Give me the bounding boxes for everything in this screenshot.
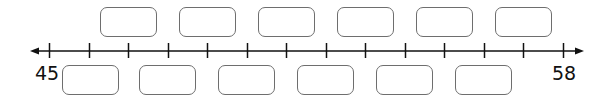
top-answer-box-5[interactable] bbox=[416, 7, 473, 37]
bottom-answer-box-1[interactable] bbox=[62, 65, 119, 95]
end-label: 58 bbox=[552, 64, 576, 83]
bottom-answer-box-4[interactable] bbox=[297, 65, 354, 95]
bottom-answer-box-5[interactable] bbox=[376, 65, 433, 95]
bottom-answer-box-3[interactable] bbox=[218, 65, 275, 95]
top-answer-box-1[interactable] bbox=[100, 7, 157, 37]
bottom-answer-box-6[interactable] bbox=[455, 65, 512, 95]
bottom-answer-box-2[interactable] bbox=[139, 65, 196, 95]
number-line-worksheet: 45 58 bbox=[0, 0, 611, 104]
left-arrow-icon bbox=[30, 48, 39, 55]
top-answer-box-4[interactable] bbox=[337, 7, 394, 37]
top-answer-box-6[interactable] bbox=[495, 7, 552, 37]
right-arrow-icon bbox=[575, 48, 584, 55]
top-answer-box-2[interactable] bbox=[179, 7, 236, 37]
start-label: 45 bbox=[35, 64, 59, 83]
top-answer-box-3[interactable] bbox=[258, 7, 315, 37]
